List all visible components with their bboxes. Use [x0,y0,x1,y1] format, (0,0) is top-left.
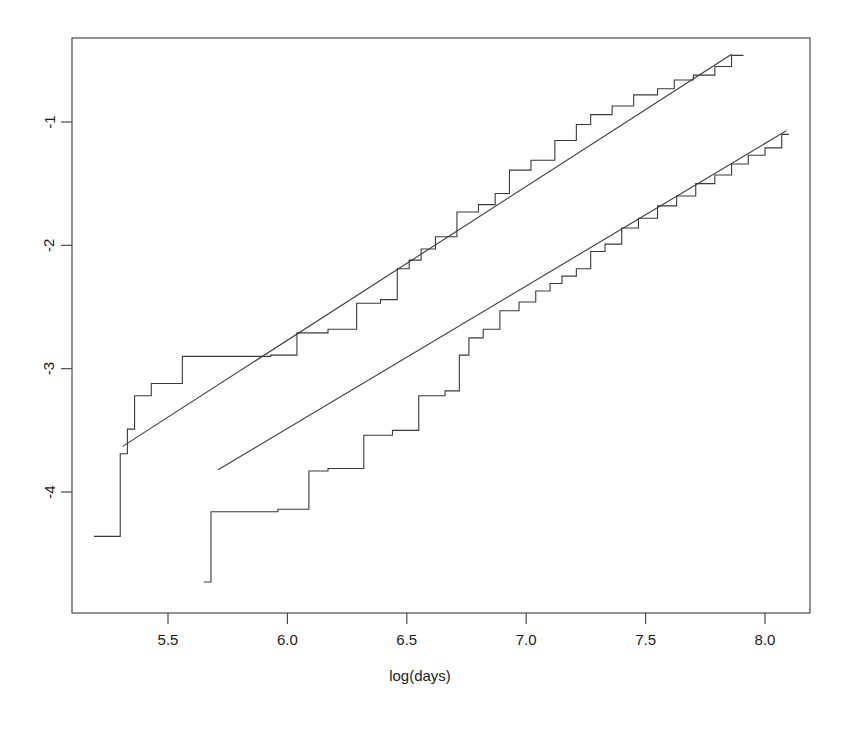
x-tick-label: 6.5 [396,631,417,648]
x-tick-label: 6.0 [277,631,298,648]
x-axis-title: log(days) [389,667,451,684]
x-tick-label: 5.5 [158,631,179,648]
x-tick-label: 8.0 [755,631,776,648]
y-tick-label: -1 [41,115,58,128]
x-tick-label: 7.0 [516,631,537,648]
plot-canvas: 5.56.06.57.07.58.0 -1-2-3-4 log(days) [0,0,851,731]
y-tick-label: -4 [41,485,58,498]
chart-figure: 5.56.06.57.07.58.0 -1-2-3-4 log(days) [0,0,851,731]
y-tick-label: -3 [41,362,58,375]
figure-background [0,0,851,731]
x-tick-label: 7.5 [635,631,656,648]
y-tick-label: -2 [41,239,58,252]
